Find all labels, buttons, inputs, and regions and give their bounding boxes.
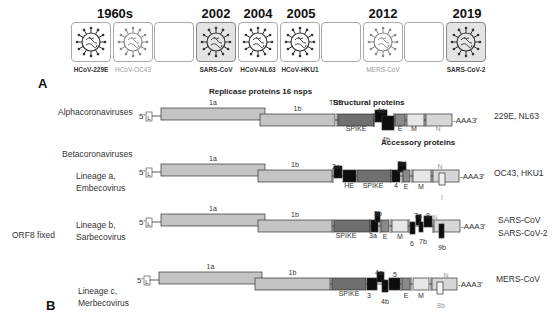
three-prime-polyA-label: -AAA3' [461,222,486,231]
orf1b-label: 1b [291,161,299,168]
e-gene-label: E [398,125,403,132]
virus-name-label: HCoV-NL63 [240,66,275,73]
orf1b-box [260,114,335,126]
virus-tile-sars-cov-2 [446,22,486,62]
spike-gene-label: SPIKE [346,125,367,132]
spike-gene [332,278,366,290]
virus-tile-hcov-oc43 [113,22,153,62]
8b-gene-label: 8b [437,302,445,309]
orf1a-box [159,272,262,284]
empty-tile [154,22,194,62]
virus-name-label: SARS-CoV [199,66,232,73]
8b-gene [437,282,443,294]
year-label: 2002 [202,6,231,21]
3-gene-label: 3 [367,292,371,299]
n-gene-label: N [437,163,442,170]
9b-gene-label: 9b [438,244,446,251]
virus-icon [449,25,483,59]
trs-label: TRS [329,99,343,106]
n-gene-label: N [435,125,440,132]
virus-name-label: MERS-CoV [366,66,400,73]
orf1b-box [255,278,330,290]
m-gene [392,220,408,232]
orf1a-label: 1a [209,205,217,212]
e-gene-label: E [383,233,388,240]
coronavirus-genome-figure: A Replicase proteins 16 nsps Structural … [0,0,557,318]
orf1b-label: 1b [289,269,297,276]
three-prime-polyA-label: -AAA3' [453,116,478,125]
m-gene [413,170,431,182]
n-gene [432,278,457,290]
virus-icon [366,25,400,59]
i-gene-label: I [441,194,443,201]
m-gene-label: M [411,125,417,132]
4b-gene [382,280,388,292]
7b-gene-label: 7b [419,238,427,245]
virus-icon [283,25,317,59]
spike-gene-label: SPIKE [363,182,384,189]
five-prime-label: 5' [139,218,145,227]
spike-gene [334,220,370,232]
4a-gene-label: 4a [377,107,385,114]
virus-name-label: HCoV-OC43 [115,66,151,73]
n-gene [434,220,460,232]
five-prime-label: 5' [139,168,145,177]
e-gene [402,278,410,290]
6-gene [410,222,415,234]
3a-gene-label: 3a [369,232,377,239]
4b-gene-label: 4b [381,298,389,305]
orf1a-label: 1a [207,263,215,270]
4b-gene [382,116,394,130]
virus-icon [241,25,275,59]
virus-name-label: HCoV-229E [74,66,109,73]
he-gene [343,170,356,182]
m-gene-label: M [397,233,403,240]
m-gene [413,278,429,290]
i-gene [439,173,445,185]
virus-tile-sars-cov [196,22,236,62]
9b-gene [439,224,444,238]
5a-gene-label: 5a [398,160,406,167]
7b-gene [419,222,423,232]
5-gene-label: 5 [393,271,397,278]
4-gene-label: 4 [394,182,398,189]
e-gene-label: E [404,292,409,299]
3b-gene-label: 3b [374,210,382,217]
three-prime-polyA-label: -AAA3' [460,172,485,181]
virus-icon [199,25,233,59]
6-gene-label: 6 [410,240,414,247]
7a-gene-label: 7a [414,212,422,219]
n-gene-label: N [443,272,448,279]
he-gene-label: HE [344,182,354,189]
three-prime-polyA-label: -AAA3' [458,280,483,289]
virus-tile-hcov-nl63 [238,22,278,62]
five-prime-label: 5' [137,276,143,285]
e-gene-label: E [404,183,409,190]
spike-gene [357,170,391,182]
4a-gene-label: 4a [375,269,383,276]
4b-gene-label: 4b [382,136,390,143]
year-label: 2012 [369,6,398,21]
spike-gene-label: SPIKE [339,290,360,297]
virus-tile-mers-cov [363,22,403,62]
virus-name-label: HCoV-HKU1 [281,66,318,73]
orf1b-label: 1b [294,105,302,112]
n-gene [433,170,459,182]
virus-icon [116,25,150,59]
orf1a-box [161,214,265,226]
5-gene [389,278,400,290]
year-label: 1960s [97,6,133,21]
m-gene-label: M [418,183,424,190]
orf1a-label: 1a [209,155,217,162]
orf1a-label: 1a [209,99,217,106]
virus-name-label: SARS-CoV-2 [447,66,486,73]
orf1b-box [258,170,332,182]
orf1b-label: 1b [291,211,299,218]
empty-tile [404,22,444,62]
e-gene [403,170,410,182]
m-gene-label: M [418,292,424,299]
orf1b-box [258,220,332,232]
virus-tile-hcov-hku1 [280,22,320,62]
year-label: 2019 [453,6,482,21]
e-gene [381,220,389,232]
